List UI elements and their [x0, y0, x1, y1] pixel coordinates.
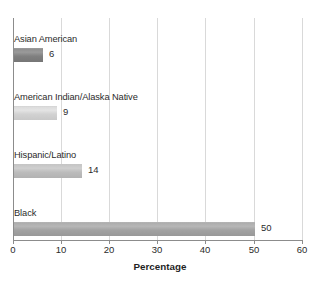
bar-value-asian-american: 6	[49, 47, 54, 61]
tick-label-60: 60	[287, 244, 317, 256]
tick-label-20: 20	[94, 244, 124, 256]
tick-label-0: 0	[0, 244, 28, 256]
category-label-asian-american: Asian American	[14, 34, 77, 45]
category-label-black: Black	[14, 208, 36, 219]
gridline-30	[157, 18, 158, 240]
bar-black[interactable]	[14, 222, 255, 236]
plot-area: Asian American 6 American Indian/Alaska …	[13, 18, 302, 240]
gridline-20	[109, 18, 110, 240]
bar-value-black: 50	[261, 221, 272, 235]
tick-label-50: 50	[239, 244, 269, 256]
tick-label-10: 10	[46, 244, 76, 256]
bar-value-american-indian-alaska-native: 9	[63, 105, 68, 119]
bar-asian-american[interactable]	[14, 48, 43, 62]
gridline-40	[205, 18, 206, 240]
tick-label-40: 40	[190, 244, 220, 256]
x-axis-line	[13, 240, 303, 241]
category-label-american-indian-alaska-native: American Indian/Alaska Native	[14, 92, 138, 103]
bar-value-hispanic-latino: 14	[88, 163, 99, 177]
gridline-10	[61, 18, 62, 240]
bar-hispanic-latino[interactable]	[14, 164, 82, 178]
tick-label-30: 30	[142, 244, 172, 256]
gridline-50	[254, 18, 255, 240]
category-label-hispanic-latino: Hispanic/Latino	[14, 150, 76, 161]
x-axis-title: Percentage	[0, 261, 320, 272]
bar-american-indian-alaska-native[interactable]	[14, 106, 57, 120]
bar-chart: Asian American 6 American Indian/Alaska …	[0, 0, 320, 281]
gridline-60	[302, 18, 303, 240]
